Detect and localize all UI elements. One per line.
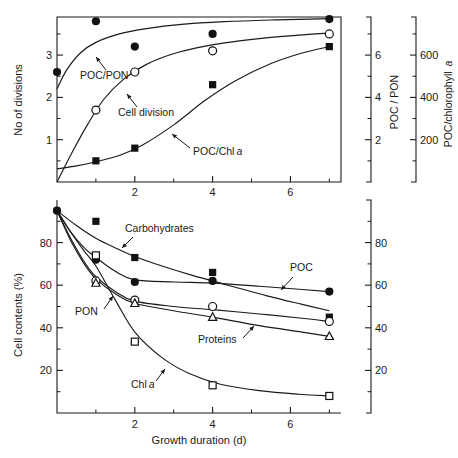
top-secondary-axis-2 xyxy=(411,17,416,182)
bottom-xtick-label-2: 6 xyxy=(287,418,293,430)
datapoint-cell-division xyxy=(92,106,100,114)
datapoint-poc-chl-a xyxy=(131,145,138,152)
bottom-xtick-label-1: 4 xyxy=(210,418,216,430)
bottom-ytick-label-3: 80 xyxy=(40,237,52,249)
bottom-right-tick-label-0: 20 xyxy=(375,364,387,376)
curve-chl-a xyxy=(57,211,329,396)
datapoint-poc-chl-a xyxy=(326,43,333,50)
annotation-chl-a: Chla xyxy=(131,378,155,390)
poc-pon-tick-label-0: 2 xyxy=(375,134,381,146)
bottom-right-tick-label-2: 60 xyxy=(375,279,387,291)
bottom-ytick-label-2: 60 xyxy=(40,279,52,291)
datapoint-origin xyxy=(53,207,61,215)
leader-chl-a-head xyxy=(160,369,165,374)
poc-chl-tick-label-2: 600 xyxy=(420,49,438,61)
datapoint-poc-chl-a xyxy=(92,157,99,164)
annotation-poc: POC xyxy=(290,261,313,273)
poc-pon-axis-title: POC / PON xyxy=(388,75,400,129)
datapoint-carbohydrates xyxy=(209,269,216,276)
figure-svg: 123No of divisions246246POC / PON2004006… xyxy=(0,0,458,458)
datapoint-chl-a xyxy=(131,338,138,345)
datapoint-poc-pon xyxy=(325,15,333,23)
annotation-cell-division: Cell division xyxy=(118,106,174,118)
bottom-right-tick-label-3: 80 xyxy=(375,237,387,249)
top-xtick-label-2: 6 xyxy=(287,186,293,198)
datapoint-poc-pon xyxy=(131,43,139,51)
bottom-right-tick-label-1: 40 xyxy=(375,322,387,334)
annotation-poc-chl: POC/Chla xyxy=(193,145,242,157)
datapoint-poc-pon xyxy=(92,17,100,25)
datapoint-carbohydrates xyxy=(131,254,138,261)
poc-chl-tick-label-1: 400 xyxy=(420,91,438,103)
datapoint-cell-division xyxy=(209,47,217,55)
datapoint-poc xyxy=(325,287,333,295)
poc-pon-tick-label-2: 6 xyxy=(375,49,381,61)
figure-container: 123No of divisions246246POC / PON2004006… xyxy=(0,0,458,458)
datapoint-cell-division xyxy=(131,68,139,76)
datapoint-cell-division xyxy=(325,30,333,38)
top-ytick-label-0: 1 xyxy=(46,134,52,146)
annotation-carbohydrates: Carbohydrates xyxy=(125,222,194,234)
top-ytick-label-1: 2 xyxy=(46,91,52,103)
top-left-axis-title: No of divisions xyxy=(12,64,24,136)
leader-pon-head xyxy=(109,296,113,301)
datapoint-poc-pon xyxy=(53,68,61,76)
bottom-ytick-label-1: 40 xyxy=(40,322,52,334)
bottom-ytick-label-0: 20 xyxy=(40,364,52,376)
datapoint-poc-pon xyxy=(209,30,217,38)
bottom-xtick-label-0: 2 xyxy=(132,418,138,430)
datapoint-poc xyxy=(131,278,139,286)
top-secondary-axis-1 xyxy=(366,17,371,182)
datapoint-chl-a xyxy=(92,252,99,259)
datapoint-poc-chl-a xyxy=(209,81,216,88)
annotation-proteins: Proteins xyxy=(198,333,237,345)
datapoint-chl-a xyxy=(326,392,333,399)
top-xtick-label-0: 2 xyxy=(132,186,138,198)
poc-chl-axis-title: POC/chlorophyll a xyxy=(442,61,454,148)
bottom-panel-frame xyxy=(57,200,341,413)
datapoint-pon xyxy=(325,317,333,325)
annotation-poc-pon: POC/PON xyxy=(80,69,128,81)
top-xtick-label-1: 4 xyxy=(210,186,216,198)
poc-pon-tick-label-1: 4 xyxy=(375,91,381,103)
top-ytick-label-2: 3 xyxy=(46,49,52,61)
datapoint-poc xyxy=(209,277,217,285)
poc-chl-tick-label-0: 200 xyxy=(420,134,438,146)
datapoint-pon xyxy=(209,303,217,311)
bottom-left-axis-title: Cell contents (%) xyxy=(12,273,24,357)
top-panel-frame xyxy=(57,17,341,182)
annotation-pon: PON xyxy=(75,305,98,317)
datapoint-carbohydrates xyxy=(92,218,99,225)
datapoint-chl-a xyxy=(209,382,216,389)
x-axis-title: Growth duration (d) xyxy=(152,434,247,446)
